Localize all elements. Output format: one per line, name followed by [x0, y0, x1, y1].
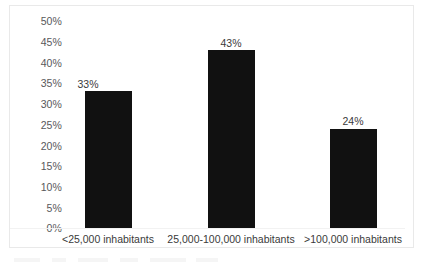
y-axis-tick-label: 20% [10, 140, 62, 152]
y-axis-tick-label: 25% [10, 119, 62, 131]
scan-artifact [120, 258, 138, 262]
scan-artifact [78, 258, 108, 262]
bar-segment [208, 50, 255, 228]
bar-chart: 50% 45% 40% 35% 30% 25% 20% 15% 10% 5% 0… [0, 0, 434, 269]
bar-value-label: 43% [191, 37, 271, 49]
scan-artifact [52, 258, 66, 262]
x-axis-line [10, 228, 405, 229]
y-axis-tick-label: 40% [10, 57, 62, 69]
scan-artifact [150, 258, 186, 262]
scan-artifact [196, 258, 218, 262]
y-axis-tick-label: 5% [10, 202, 62, 214]
y-axis-tick-label: 15% [10, 160, 62, 172]
y-axis-tick-label: 50% [10, 15, 62, 27]
y-axis-tick-label: 30% [10, 98, 62, 110]
bar-value-label: 33% [48, 78, 128, 90]
scan-artifact [14, 258, 40, 262]
bar-value-label: 24% [313, 115, 393, 127]
y-axis-tick-label: 45% [10, 36, 62, 48]
y-axis-tick-label: 10% [10, 181, 62, 193]
bar-segment [330, 129, 377, 228]
bar-segment [85, 91, 132, 228]
x-axis-category-label: >100,000 inhabitants [278, 233, 428, 245]
